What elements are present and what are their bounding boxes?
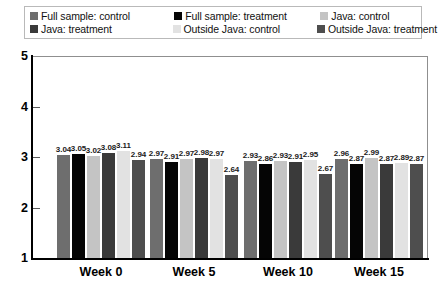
legend-item-outside-java-control: Outside Java: control: [173, 23, 317, 36]
x-axis-category-label: Week 5: [150, 265, 238, 279]
bar-value-label: 3.04: [56, 145, 72, 154]
bar[interactable]: [304, 160, 317, 258]
bar-slot: 2.93: [244, 56, 257, 258]
bar[interactable]: [210, 159, 223, 258]
bar-group: 2.962.872.992.872.892.87: [335, 56, 423, 258]
bar[interactable]: [57, 155, 70, 258]
bar[interactable]: [259, 164, 272, 258]
bar-value-label: 2.96: [334, 149, 350, 158]
y-axis-tick-label-text: 1: [2, 252, 28, 264]
bar[interactable]: [195, 158, 208, 258]
bar[interactable]: [274, 161, 287, 258]
y-axis-tick-label: 4: [0, 101, 28, 113]
bar[interactable]: [165, 162, 178, 258]
legend-item-full-sample-control: Full sample: control: [30, 10, 174, 23]
bar[interactable]: [102, 153, 115, 258]
bar[interactable]: [72, 154, 85, 258]
bar[interactable]: [87, 156, 100, 258]
legend-item-full-sample-treatment: Full sample: treatment: [174, 10, 320, 23]
bar-slot: 2.91: [165, 56, 178, 258]
bar[interactable]: [180, 159, 193, 258]
y-axis-tick-label-text: 5: [2, 50, 28, 62]
bar-slot: 2.87: [350, 56, 363, 258]
legend-item-label: Outside Java: control: [184, 24, 281, 35]
bar[interactable]: [410, 164, 423, 258]
y-axis-tick-label: 1: [0, 252, 28, 264]
bar-value-label: 2.99: [364, 148, 380, 157]
bar-value-label: 2.97: [209, 149, 225, 158]
y-axis-tick-label: 5: [0, 50, 28, 62]
bar-slot: 2.87: [380, 56, 393, 258]
bar-slot: 2.97: [150, 56, 163, 258]
bar-value-label: 2.87: [409, 154, 425, 163]
bar-value-label: 2.97: [149, 149, 165, 158]
bar-slot: 2.91: [289, 56, 302, 258]
legend-item-label: Java: treatment: [41, 24, 112, 35]
bar-slot: 2.64: [225, 56, 238, 258]
y-axis-tick-label-text: 4: [2, 101, 28, 113]
legend-item-java-control: Java: control: [320, 10, 417, 23]
bar[interactable]: [395, 163, 408, 258]
bar-slot: 2.99: [365, 56, 378, 258]
bar-value-label: 3.11: [116, 141, 131, 150]
bar-group: 3.043.053.023.083.112.94: [57, 56, 145, 258]
legend-item-label: Full sample: control: [41, 11, 130, 22]
bar-value-label: 2.98: [194, 148, 210, 157]
bar-value-label: 2.94: [131, 150, 147, 159]
bar-slot: 3.11: [117, 56, 130, 258]
bar-value-label: 3.05: [71, 144, 87, 153]
legend-swatch-icon: [174, 12, 182, 20]
bar-slot: 2.87: [410, 56, 423, 258]
y-axis-tick-label: 3: [0, 151, 28, 163]
x-axis-category-label: Week 10: [244, 265, 332, 279]
y-axis-tick-label: 2: [0, 202, 28, 214]
legend-row-2: Java: treatment Outside Java: control Ou…: [30, 23, 417, 36]
bar[interactable]: [244, 161, 257, 258]
legend-swatch-icon: [173, 25, 181, 33]
bar[interactable]: [319, 174, 332, 258]
legend-item-label: Java: control: [331, 11, 389, 22]
bar-value-label: 2.89: [394, 153, 410, 162]
bar-slot: 2.86: [259, 56, 272, 258]
bar-slot: 3.02: [87, 56, 100, 258]
bar-slot: 2.97: [210, 56, 223, 258]
bar-slot: 2.89: [395, 56, 408, 258]
bar-value-label: 2.87: [379, 154, 395, 163]
bar-slot: 2.97: [180, 56, 193, 258]
bar[interactable]: [365, 158, 378, 258]
bar-value-label: 2.97: [179, 149, 195, 158]
bar-slot: 3.04: [57, 56, 70, 258]
bar-value-label: 2.64: [224, 165, 240, 174]
legend-item-label: Outside Java: treatment: [328, 24, 437, 35]
bar[interactable]: [350, 164, 363, 258]
legend-swatch-icon: [317, 25, 325, 33]
bar[interactable]: [289, 162, 302, 258]
bar-value-label: 2.87: [349, 154, 365, 163]
bar[interactable]: [150, 159, 163, 258]
bar-group: 2.932.862.932.912.952.67: [244, 56, 332, 258]
bar-group: 2.972.912.972.982.972.64: [150, 56, 238, 258]
legend-swatch-icon: [320, 12, 328, 20]
bar-slot: 2.96: [335, 56, 348, 258]
y-axis-tick-label-text: 3: [2, 151, 28, 163]
bar-slot: 2.95: [304, 56, 317, 258]
bar-value-label: 2.93: [243, 151, 259, 160]
bar-value-label: 2.95: [303, 150, 319, 159]
legend-item-java-treatment: Java: treatment: [30, 23, 173, 36]
bar-slot: 2.98: [195, 56, 208, 258]
x-axis-category-label: Week 0: [57, 265, 145, 279]
x-axis-line: [31, 258, 429, 260]
bar-value-label: 3.02: [86, 146, 102, 155]
y-axis-tick-label-text: 2: [2, 202, 28, 214]
bar[interactable]: [132, 160, 145, 258]
bar-value-label: 2.86: [258, 154, 274, 163]
bar[interactable]: [335, 159, 348, 258]
bar-value-label: 2.91: [288, 152, 304, 161]
legend-swatch-icon: [30, 12, 38, 20]
bar[interactable]: [225, 175, 238, 258]
bar-slot: 3.05: [72, 56, 85, 258]
legend-item-label: Full sample: treatment: [185, 11, 287, 22]
bar[interactable]: [117, 151, 130, 258]
bar-value-label: 2.67: [318, 164, 334, 173]
bar[interactable]: [380, 164, 393, 258]
